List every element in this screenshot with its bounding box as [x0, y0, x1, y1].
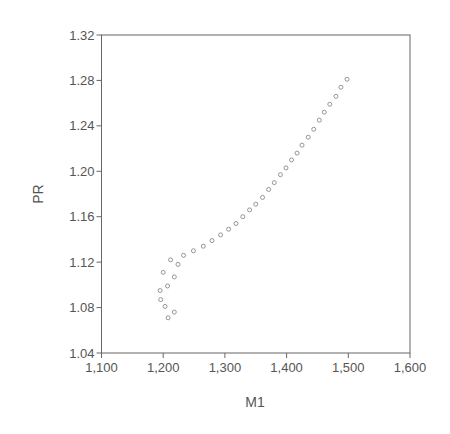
data-point: [290, 158, 294, 162]
data-point: [306, 135, 310, 139]
data-point: [166, 316, 170, 320]
data-point: [227, 227, 231, 231]
data-point: [317, 118, 321, 122]
y-tick-label: 1.24: [69, 118, 94, 133]
x-tick-label: 1,600: [394, 360, 427, 375]
data-point: [234, 222, 238, 226]
y-tick-label: 1.32: [69, 28, 94, 43]
data-point: [219, 233, 223, 237]
data-point: [248, 208, 252, 212]
data-point: [159, 298, 163, 302]
x-tick-label: 1,400: [270, 360, 303, 375]
data-point: [328, 102, 332, 106]
y-axis-title: PR: [30, 184, 46, 203]
data-point: [272, 181, 276, 185]
data-point: [158, 289, 162, 293]
data-point: [334, 94, 338, 98]
data-point: [161, 270, 165, 274]
data-point: [345, 77, 349, 81]
data-point: [241, 215, 245, 219]
data-point: [322, 110, 326, 114]
data-point: [295, 151, 299, 155]
data-point: [172, 275, 176, 279]
x-tick-label: 1,100: [85, 360, 118, 375]
data-point: [261, 195, 265, 199]
x-tick-label: 1,200: [147, 360, 180, 375]
data-point: [210, 239, 214, 243]
scatter-chart: 1.041.081.121.161.201.241.281.32 1,1001,…: [0, 0, 450, 434]
data-point: [300, 143, 304, 147]
data-point: [339, 85, 343, 89]
y-axis-ticks: 1.041.081.121.161.201.241.281.32: [69, 28, 101, 361]
y-tick-label: 1.08: [69, 300, 94, 315]
y-tick-label: 1.12: [69, 255, 94, 270]
data-point: [267, 187, 271, 191]
data-point: [163, 304, 167, 308]
x-tick-label: 1,500: [332, 360, 365, 375]
y-tick-label: 1.16: [69, 209, 94, 224]
data-point: [182, 253, 186, 257]
data-point: [169, 258, 173, 262]
y-tick-label: 1.20: [69, 164, 94, 179]
data-point: [166, 284, 170, 288]
x-axis-ticks: 1,1001,2001,3001,4001,5001,600: [85, 353, 426, 375]
y-tick-label: 1.28: [69, 73, 94, 88]
data-points: [158, 77, 349, 320]
data-point: [278, 173, 282, 177]
data-point: [284, 166, 288, 170]
data-point: [172, 310, 176, 314]
y-tick-label: 1.04: [69, 346, 94, 361]
x-axis-title: M1: [245, 394, 265, 410]
data-point: [312, 127, 316, 131]
plot-frame: [102, 35, 411, 353]
data-point: [254, 202, 258, 206]
data-point: [191, 249, 195, 253]
data-point: [201, 244, 205, 248]
x-tick-label: 1,300: [209, 360, 242, 375]
data-point: [176, 262, 180, 266]
